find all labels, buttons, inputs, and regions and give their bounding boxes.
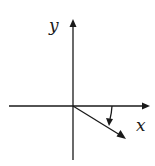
vector-arrowhead-icon	[117, 130, 127, 139]
rotation-arrow-line	[110, 106, 112, 119]
vector-line	[73, 106, 120, 135]
coordinate-diagram: y x	[0, 0, 155, 166]
y-axis	[70, 19, 77, 160]
rotation-arrowhead-icon	[106, 118, 113, 126]
x-axis-label: x	[136, 115, 146, 135]
x-axis-arrowhead-icon	[142, 103, 150, 110]
x-axis	[9, 103, 150, 110]
rotation-arrow	[106, 106, 113, 126]
y-axis-label: y	[48, 15, 59, 35]
y-axis-arrowhead-icon	[70, 19, 77, 27]
vector	[73, 106, 126, 139]
